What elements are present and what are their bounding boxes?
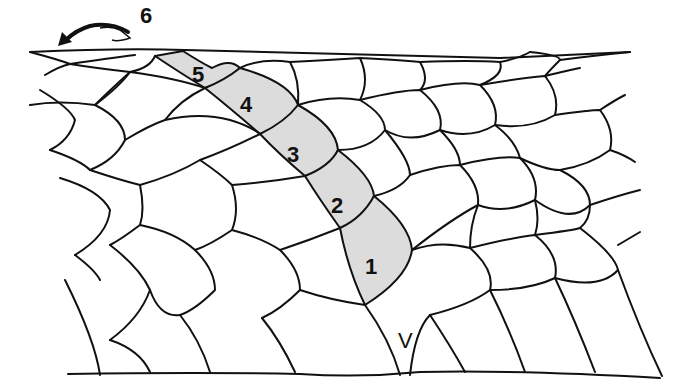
curved-arrow-left-icon (58, 25, 130, 46)
ventral-edge (68, 372, 660, 378)
scale-row-3-label: 3 (287, 144, 299, 166)
scale-row-6-label: 6 (140, 5, 152, 27)
scale-diagram (0, 0, 689, 390)
ventral-scale-label: V (398, 330, 413, 352)
scale-row-4-label: 4 (240, 94, 252, 116)
scale-row-5-label: 5 (192, 64, 204, 86)
scale-row-1-label: 1 (365, 256, 377, 278)
scale-row-2-label: 2 (331, 195, 343, 217)
